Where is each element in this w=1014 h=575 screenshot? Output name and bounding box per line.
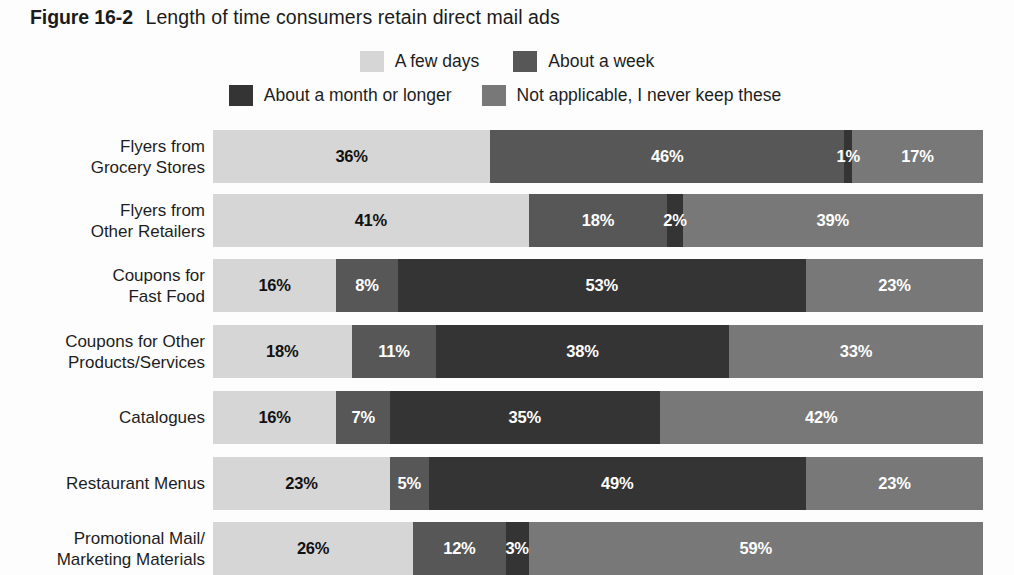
segment-value-label: 35% [509,408,541,427]
bar-row: Restaurant Menus23%5%49%23% [0,457,1014,510]
bar-row: Catalogues16%7%35%42% [0,391,1014,444]
category-label-line: Flyers from [120,136,205,157]
segment-value-label: 33% [840,342,872,361]
segment-value-label: 11% [378,342,410,361]
legend-label: About a month or longer [264,85,452,106]
legend-label: A few days [395,51,480,72]
category-label-line: Fast Food [128,286,205,307]
bar-segment-a-few-days: 23% [213,457,390,510]
segment-value-label: 12% [443,539,475,558]
segment-value-label: 18% [266,342,298,361]
segment-value-label: 23% [878,474,910,493]
segment-value-label: 53% [586,276,618,295]
category-label-line: Catalogues [119,407,205,428]
bar-segment-a-few-days: 41% [213,194,529,247]
stacked-bar: 36%46%1%17% [213,130,983,183]
legend-swatch-icon [482,85,506,106]
bar-segment-about-a-week: 12% [413,522,505,575]
bar-segment-not-applicable-i-never-keep-these: 59% [529,522,983,575]
bar-segment-about-a-month-or-longer: 3% [506,522,529,575]
category-label-line: Restaurant Menus [66,473,205,494]
stacked-bar: 26%12%3%59% [213,522,983,575]
figure-number: Figure 16-2 [30,6,133,28]
segment-value-label: 17% [901,147,933,166]
stacked-bar: 16%7%35%42% [213,391,983,444]
bar-row: Coupons forFast Food16%8%53%23% [0,259,1014,312]
bar-segment-not-applicable-i-never-keep-these: 39% [683,194,983,247]
category-label-line: Other Retailers [91,221,205,242]
bar-segment-not-applicable-i-never-keep-these: 23% [806,259,983,312]
bar-segment-about-a-month-or-longer: 2% [667,194,682,247]
figure-caption: Length of time consumers retain direct m… [145,6,559,28]
stacked-bar: 16%8%53%23% [213,259,983,312]
category-label-flyers-from-other-retailers: Flyers fromOther Retailers [0,194,205,247]
bar-row: Flyers fromOther Retailers41%18%2%39% [0,194,1014,247]
category-label-line: Coupons for Other [65,331,205,352]
bar-segment-about-a-month-or-longer: 35% [390,391,660,444]
chart-legend: A few days About a week About a month or… [0,44,1014,120]
legend-item-not-applicable: Not applicable, I never keep these [482,85,782,106]
figure-container: Figure 16-2 Length of time consumers ret… [0,0,1014,575]
legend-swatch-icon [360,51,384,72]
bar-row: Promotional Mail/Marketing Materials26%1… [0,522,1014,575]
segment-value-label: 41% [355,211,387,230]
category-label-line: Grocery Stores [91,157,205,178]
segment-value-label: 46% [651,147,683,166]
legend-label: Not applicable, I never keep these [517,85,782,106]
legend-row-1: A few days About a week [0,44,1014,78]
category-label-line: Coupons for [112,265,205,286]
category-label-line: Flyers from [120,200,205,221]
segment-value-label: 39% [817,211,849,230]
segment-value-label: 26% [297,539,329,558]
bar-segment-about-a-week: 5% [390,457,429,510]
bar-segment-about-a-week: 7% [336,391,390,444]
segment-value-label: 5% [398,474,421,493]
bar-segment-a-few-days: 36% [213,130,490,183]
segment-value-label: 59% [740,539,772,558]
bar-segment-not-applicable-i-never-keep-these: 33% [729,325,983,378]
bar-segment-about-a-week: 8% [336,259,398,312]
category-label-coupons-for-other-products-services: Coupons for OtherProducts/Services [0,325,205,378]
bar-segment-about-a-month-or-longer: 38% [436,325,729,378]
bar-segment-a-few-days: 18% [213,325,352,378]
chart-plot-area: Flyers fromGrocery Stores36%46%1%17%Flye… [0,120,1014,575]
category-label-promotional-mail-marketing-materials: Promotional Mail/Marketing Materials [0,522,205,575]
bar-segment-not-applicable-i-never-keep-these: 17% [852,130,983,183]
segment-value-label: 8% [355,276,378,295]
legend-item-about-a-month-or-longer: About a month or longer [229,85,452,106]
segment-value-label: 18% [582,211,614,230]
segment-value-label: 3% [505,539,528,558]
bar-segment-not-applicable-i-never-keep-these: 42% [660,391,983,444]
segment-value-label: 38% [566,342,598,361]
segment-value-label: 23% [285,474,317,493]
stacked-bar: 41%18%2%39% [213,194,983,247]
bar-segment-about-a-week: 18% [529,194,668,247]
stacked-bar: 18%11%38%33% [213,325,983,378]
category-label-flyers-from-grocery-stores: Flyers fromGrocery Stores [0,130,205,183]
bar-segment-about-a-month-or-longer: 1% [844,130,852,183]
segment-value-label: 2% [663,211,686,230]
legend-swatch-icon [229,85,253,106]
stacked-bar: 23%5%49%23% [213,457,983,510]
bar-segment-about-a-week: 11% [352,325,437,378]
legend-swatch-icon [513,51,537,72]
category-label-line: Promotional Mail/ [74,528,205,549]
legend-item-about-a-week: About a week [513,51,654,72]
bar-segment-a-few-days: 16% [213,391,336,444]
segment-value-label: 16% [258,408,290,427]
bar-row: Flyers fromGrocery Stores36%46%1%17% [0,130,1014,183]
bar-segment-about-a-week: 46% [490,130,844,183]
bar-segment-not-applicable-i-never-keep-these: 23% [806,457,983,510]
category-label-line: Products/Services [68,352,205,373]
bar-segment-about-a-month-or-longer: 49% [429,457,806,510]
category-label-catalogues: Catalogues [0,391,205,444]
bar-segment-a-few-days: 16% [213,259,336,312]
figure-title: Figure 16-2 Length of time consumers ret… [30,6,990,34]
bar-segment-about-a-month-or-longer: 53% [398,259,806,312]
category-label-restaurant-menus: Restaurant Menus [0,457,205,510]
segment-value-label: 42% [805,408,837,427]
segment-value-label: 7% [351,408,374,427]
segment-value-label: 36% [335,147,367,166]
legend-label: About a week [548,51,654,72]
segment-value-label: 1% [836,147,859,166]
